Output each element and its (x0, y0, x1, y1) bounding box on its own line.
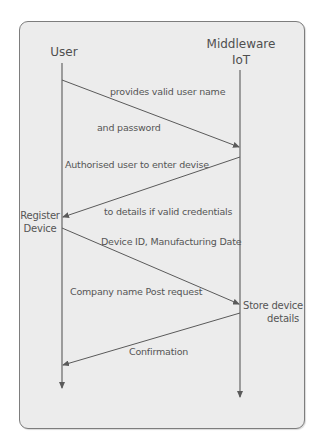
state-register-line2: Device (20, 222, 60, 235)
state-store-line1: Store device (243, 299, 299, 312)
actor-middleware-line2: IoT (198, 52, 284, 68)
actor-middleware-line1: Middleware (198, 36, 284, 52)
message-label: Authorised user to enter devise (65, 159, 209, 170)
state-register-line1: Register (20, 209, 60, 222)
message-label: Device ID, Manufacturing Date (101, 236, 241, 247)
actor-middleware: Middleware IoT (198, 36, 284, 68)
state-register-device: Register Device (20, 209, 60, 235)
message-label: provides valid user name (110, 86, 225, 97)
state-store-line2: details (243, 312, 299, 325)
actor-user: User (44, 44, 84, 60)
message-label: Confirmation (129, 346, 188, 357)
message-label: Company name Post request (70, 286, 202, 297)
message-label: and password (97, 122, 161, 133)
state-store-details: Store device details (243, 299, 299, 325)
message-label: to details if valid credentials (104, 206, 232, 217)
arrow-confirmation (63, 313, 240, 365)
